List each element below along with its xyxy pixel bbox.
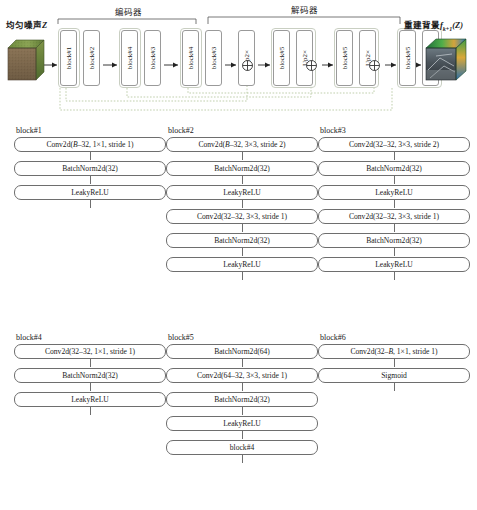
output-scene-cube [424,36,470,84]
pipeline-block-6[interactable]: block#3 [205,30,222,86]
blockdef-3-title: block#3 [320,126,470,135]
pipeline-block-5[interactable]: block#4 [182,30,199,86]
output-label: 重建背景fk+1(Z) [404,18,463,32]
blockdef-2-row-1[interactable]: BatchNorm2d(32) [166,161,318,176]
blockdef-3: block#3 Conv2d(32–32, 3×3, stride 2) Bat… [318,126,470,281]
blockdef-5-row-3[interactable]: LeakyReLU [166,416,318,431]
encoder-bracket [58,19,196,24]
blockdef-5-title: block#5 [168,333,318,342]
blockdef-4-row-0[interactable]: Conv2d(32–32, 1×1, stride 1) [14,344,166,359]
input-noise-cube [6,36,46,84]
pipeline-block5-1[interactable]: block#5 [273,30,290,86]
blockdef-2-row-4[interactable]: BatchNorm2d(32) [166,233,318,248]
blockdef-6-title: block#6 [320,333,470,342]
blockdef-6: block#6 Conv2d(32–B, 1×1, stride 1) Sigm… [318,333,470,392]
pipeline-block-4[interactable]: block#3 [144,30,161,86]
blockdef-3-row-5[interactable]: LeakyReLU [318,257,470,272]
sum-node-1 [241,59,254,72]
blockdef-5: block#5 BatchNorm2d(64) Conv2d(64–32, 3×… [166,333,318,464]
blockdef-5-row-2[interactable]: BatchNorm2d(32) [166,392,318,407]
pipeline-up2x-3[interactable]: Up2× [359,30,376,86]
blockdef-6-row-1[interactable]: Sigmoid [318,368,470,383]
pipeline-block-1[interactable]: block#1 [60,30,77,86]
pipeline-block-2[interactable]: block#2 [83,30,100,86]
blockdef-4-title: block#4 [16,333,166,342]
blockdef-2-row-2[interactable]: LeakyReLU [166,185,318,200]
blockdef-1-row-1[interactable]: BatchNorm2d(32) [14,161,166,176]
blockdef-4: block#4 Conv2d(32–32, 1×1, stride 1) Bat… [14,333,166,416]
blockdef-2-row-0[interactable]: Conv2d(B–32, 3×3, stride 2) [166,137,318,152]
pipeline-up2x-1[interactable]: Up2× [238,30,255,86]
blockdef-5-row-1[interactable]: Conv2d(64–32, 3×3, stride 1) [166,368,318,383]
pipeline-up2x-2[interactable]: Up2× [296,30,313,86]
sum-node-3 [368,59,381,72]
blockdef-2: block#2 Conv2d(B–32, 3×3, stride 2) Batc… [166,126,318,281]
blockdef-3-row-4[interactable]: BatchNorm2d(32) [318,233,470,248]
blockdef-1-title: block#1 [16,126,166,135]
blockdef-3-row-0[interactable]: Conv2d(32–32, 3×3, stride 2) [318,137,470,152]
pipeline-block-3[interactable]: block#4 [121,30,138,86]
blockdef-4-row-1[interactable]: BatchNorm2d(32) [14,368,166,383]
sum-node-2 [305,59,318,72]
pipeline-block5-2[interactable]: block#5 [336,30,353,86]
skip-path-long [60,88,392,110]
blockdef-6-row-0[interactable]: Conv2d(32–B, 1×1, stride 1) [318,344,470,359]
blockdef-3-row-3[interactable]: Conv2d(32–32, 3×3, stride 1) [318,209,470,224]
pipeline-block5-3[interactable]: block#5 [399,30,416,86]
input-label: 均匀噪声Z [6,18,47,30]
decoder-bracket [208,17,400,24]
blockdef-3-row-2[interactable]: LeakyReLU [318,185,470,200]
network-architecture-diagram: 均匀噪声Z [0,0,477,510]
decoder-label: 解码器 [274,3,334,15]
blockdef-2-title: block#2 [168,126,318,135]
blockdef-3-row-1[interactable]: BatchNorm2d(32) [318,161,470,176]
encoder-label: 编码器 [98,5,158,17]
blockdef-1-row-0[interactable]: Conv2d(B–32, 1×1, stride 1) [14,137,166,152]
blockdef-5-row-0[interactable]: BatchNorm2d(64) [166,344,318,359]
blockdef-2-row-3[interactable]: Conv2d(32–32, 3×3, stride 1) [166,209,318,224]
blockdef-5-row-4[interactable]: block#4 [166,440,318,455]
blockdef-1-row-2[interactable]: LeakyReLU [14,185,166,200]
blockdef-1: block#1 Conv2d(B–32, 1×1, stride 1) Batc… [14,126,166,209]
pipeline-row: 均匀噪声Z [0,0,477,118]
blockdef-4-row-2[interactable]: LeakyReLU [14,392,166,407]
blockdef-2-row-5[interactable]: LeakyReLU [166,257,318,272]
